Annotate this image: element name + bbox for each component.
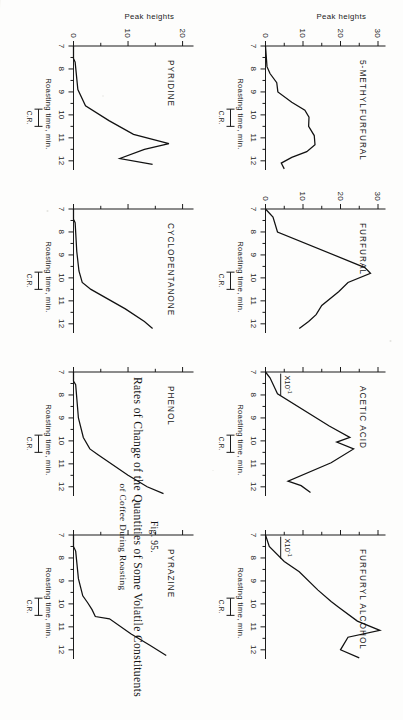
svg-text:11: 11 <box>56 296 65 305</box>
svg-text:C.R.: C.R. <box>217 600 224 614</box>
svg-text:X10-1: X10-1 <box>282 375 292 393</box>
svg-text:10: 10 <box>248 599 257 609</box>
scan-speck <box>389 340 391 342</box>
svg-text:C.R.: C.R. <box>217 274 224 288</box>
svg-text:10: 10 <box>248 436 257 446</box>
svg-text:8: 8 <box>56 556 65 561</box>
svg-text:10: 10 <box>56 599 65 609</box>
scan-speck <box>362 612 363 613</box>
svg-text:8: 8 <box>248 67 257 72</box>
svg-text:11: 11 <box>56 459 65 468</box>
y-axis-title: Peak heights <box>124 12 174 21</box>
svg-text:7: 7 <box>56 207 65 212</box>
svg-text:11: 11 <box>56 622 65 631</box>
svg-text:7: 7 <box>56 370 65 375</box>
svg-text:9: 9 <box>248 90 257 95</box>
svg-text:10: 10 <box>248 110 257 120</box>
svg-text:PYRAZINE: PYRAZINE <box>165 549 174 598</box>
plot-panel-cyclopentanone: 789101112Roasting time, min.C.R.CYCLOPEN… <box>17 179 203 342</box>
svg-text:C.R.: C.R. <box>25 111 32 125</box>
plot-panel-phenol: 789101112Roasting time, min.C.R.PHENOL <box>17 342 203 505</box>
figure-95: 0102030789101112Roasting time, min.C.R.5… <box>0 0 403 720</box>
svg-text:Roasting time, min.: Roasting time, min. <box>235 241 244 313</box>
svg-text:10: 10 <box>56 110 65 120</box>
svg-text:9: 9 <box>248 416 257 421</box>
scan-speck <box>46 210 48 212</box>
svg-text:ACETIC ACID: ACETIC ACID <box>357 386 366 449</box>
data-curve <box>265 46 315 169</box>
svg-text:10: 10 <box>298 192 307 202</box>
plot-panel-pyridine: 01020789101112Roasting time, min.C.R.PYR… <box>17 16 203 179</box>
svg-text:10: 10 <box>56 273 65 283</box>
plot-panel-furfural: 0102030789101112Roasting time, min.C.R.F… <box>209 179 395 342</box>
svg-text:9: 9 <box>248 579 257 584</box>
svg-text:11: 11 <box>248 622 257 631</box>
svg-text:0: 0 <box>260 196 269 201</box>
svg-text:11: 11 <box>248 133 257 142</box>
svg-text:C.R.: C.R. <box>217 437 224 451</box>
data-curve <box>265 372 353 493</box>
svg-text:CYCLOPENTANONE: CYCLOPENTANONE <box>165 223 174 316</box>
plot-panel-pyrazine: 789101112Roasting time, min.C.R.PYRAZINE <box>17 505 203 668</box>
caption-line-1: Rates of Change of the Quantities of Som… <box>129 372 145 702</box>
scan-speck <box>102 95 103 97</box>
svg-text:Roasting time, min.: Roasting time, min. <box>43 404 52 476</box>
svg-text:12: 12 <box>56 156 65 166</box>
data-curve <box>265 209 370 328</box>
svg-text:9: 9 <box>248 253 257 258</box>
svg-text:12: 12 <box>56 645 65 655</box>
plot-panel-furfuryl-alcohol: 789101112Roasting time, min.C.R.X10-1FUR… <box>209 505 395 668</box>
svg-text:9: 9 <box>56 579 65 584</box>
svg-text:12: 12 <box>248 645 257 655</box>
svg-text:C.R.: C.R. <box>25 437 32 451</box>
figure-caption: Fig. 95. Rates of Change of the Quantiti… <box>114 372 161 702</box>
svg-text:9: 9 <box>56 90 65 95</box>
svg-text:8: 8 <box>248 230 257 235</box>
svg-text:8: 8 <box>248 393 257 398</box>
svg-text:12: 12 <box>56 482 65 492</box>
svg-text:0: 0 <box>68 33 77 38</box>
svg-text:12: 12 <box>56 319 65 329</box>
data-curve <box>73 209 152 328</box>
svg-text:7: 7 <box>56 44 65 49</box>
svg-text:30: 30 <box>373 192 382 202</box>
svg-text:20: 20 <box>335 192 344 202</box>
scan-speck <box>212 470 213 471</box>
figure-number: Fig. 95. <box>145 372 161 702</box>
svg-text:8: 8 <box>56 393 65 398</box>
svg-text:7: 7 <box>248 44 257 49</box>
svg-text:9: 9 <box>56 416 65 421</box>
svg-text:8: 8 <box>248 556 257 561</box>
svg-text:12: 12 <box>248 156 257 166</box>
svg-text:C.R.: C.R. <box>217 111 224 125</box>
svg-text:C.R.: C.R. <box>25 600 32 614</box>
svg-text:11: 11 <box>248 296 257 305</box>
svg-text:7: 7 <box>248 207 257 212</box>
svg-text:7: 7 <box>56 533 65 538</box>
svg-text:9: 9 <box>56 253 65 258</box>
svg-text:8: 8 <box>56 230 65 235</box>
svg-text:11: 11 <box>56 133 65 142</box>
svg-text:10: 10 <box>56 436 65 446</box>
svg-text:11: 11 <box>248 459 257 468</box>
plot-panel-acetic-acid: 789101112Roasting time, min.C.R.X10-1ACE… <box>209 342 395 505</box>
data-curve <box>73 46 168 164</box>
svg-text:10: 10 <box>123 29 132 39</box>
plot-panel-5-methylfurfural: 0102030789101112Roasting time, min.C.R.5… <box>209 16 395 179</box>
svg-text:Roasting time, min.: Roasting time, min. <box>43 78 52 150</box>
svg-text:10: 10 <box>248 273 257 283</box>
svg-text:X10-1: X10-1 <box>282 538 292 556</box>
svg-text:7: 7 <box>248 370 257 375</box>
caption-line-2: of Coffee During Roasting <box>114 372 130 702</box>
svg-text:PYRIDINE: PYRIDINE <box>165 60 174 107</box>
y-axis-title: Peak heights <box>316 12 366 21</box>
svg-text:Roasting time, min.: Roasting time, min. <box>43 241 52 313</box>
svg-text:12: 12 <box>248 319 257 329</box>
svg-text:12: 12 <box>248 482 257 492</box>
svg-text:C.R.: C.R. <box>25 274 32 288</box>
svg-text:7: 7 <box>248 533 257 538</box>
svg-text:0: 0 <box>260 33 269 38</box>
svg-text:10: 10 <box>298 29 307 39</box>
rotated-page-container: 0102030789101112Roasting time, min.C.R.5… <box>0 0 403 720</box>
svg-text:PHENOL: PHENOL <box>165 386 174 426</box>
